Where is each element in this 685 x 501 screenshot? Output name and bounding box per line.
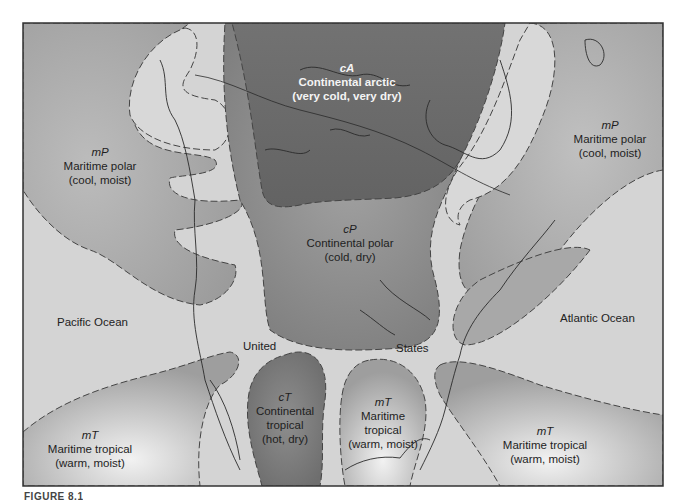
label-ca: cA Continental arctic (very cold, very d… xyxy=(292,61,402,103)
label-united: United xyxy=(243,340,276,352)
label-mt-atlantic: mT Maritime tropical (warm, moist) xyxy=(490,424,600,466)
label-ct: cT Continental tropical (hot, dry) xyxy=(246,390,324,446)
label-states: States xyxy=(396,342,429,354)
label-pacific-ocean: Pacific Ocean xyxy=(57,316,128,328)
figure-caption: FIGURE 8.1 xyxy=(24,491,83,501)
label-mt-pacific: mT Maritime tropical (warm, moist) xyxy=(35,428,145,470)
label-cp: cP Continental polar (cold, dry) xyxy=(285,222,415,264)
label-mt-gulf: mT Maritime tropical (warm, moist) xyxy=(338,395,428,451)
label-mp-atlantic: mP Maritime polar (cool, moist) xyxy=(555,118,665,160)
label-mp-pacific: mP Maritime polar (cool, moist) xyxy=(45,145,155,187)
label-atlantic-ocean: Atlantic Ocean xyxy=(560,312,635,324)
